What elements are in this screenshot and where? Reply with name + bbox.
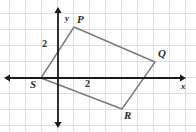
vertex-label-s: S (30, 79, 36, 90)
y-axis-tick-label-2: 2 (42, 39, 47, 49)
coordinate-plane-graphic (0, 0, 196, 132)
vertex-label-q: Q (158, 48, 166, 59)
y-axis-label: y (65, 14, 69, 23)
x-axis-tick-label-2: 2 (85, 79, 90, 89)
y-axis-arrow-up (54, 7, 61, 13)
figure-canvas: x y 2 2 P Q R S (0, 0, 196, 132)
x-axis-arrow-left (4, 74, 10, 81)
x-axis-label: x (181, 82, 186, 91)
axes (9, 12, 181, 123)
grid-lines (0, 0, 196, 132)
vertex-label-p: P (77, 14, 84, 25)
vertex-label-r: R (124, 110, 131, 121)
